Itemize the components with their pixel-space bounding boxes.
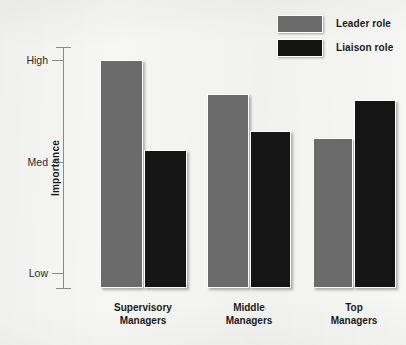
category-label-3: TopManagers bbox=[331, 301, 378, 327]
category-label-line1: Middle bbox=[226, 301, 273, 314]
bar-chart-figure: Leader role Liaison role High Med Low Im… bbox=[0, 0, 406, 345]
category-label-line2: Managers bbox=[226, 314, 273, 327]
bar-leader-group-1 bbox=[100, 60, 143, 288]
category-label-1: SupervisoryManagers bbox=[114, 301, 172, 327]
bar-liaison-group-2 bbox=[250, 131, 291, 288]
category-label-2: MiddleManagers bbox=[226, 301, 273, 327]
plot-area: SupervisoryManagersMiddleManagersTopMana… bbox=[0, 0, 406, 345]
category-label-line2: Managers bbox=[114, 314, 172, 327]
bar-liaison-group-1 bbox=[144, 150, 187, 288]
category-label-line1: Top bbox=[331, 301, 378, 314]
bar-leader-group-3 bbox=[313, 138, 353, 288]
category-label-line2: Managers bbox=[331, 314, 378, 327]
bar-leader-group-2 bbox=[207, 94, 249, 288]
bar-liaison-group-3 bbox=[354, 100, 396, 288]
category-label-line1: Supervisory bbox=[114, 301, 172, 314]
